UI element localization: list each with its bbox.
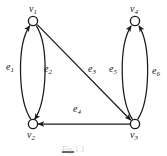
- figure-container: v1 v2 v3 v4 e1 e2 e3 e4 e5 e6 Fig 1.1: [0, 0, 167, 156]
- edge-label-e4-subscript: 4: [77, 108, 81, 116]
- vertex-v1: [28, 16, 37, 25]
- edge-path-e5: [122, 26, 132, 120]
- edge-label-e3-subscript: 3: [92, 68, 96, 76]
- edge-path-e1: [21, 26, 31, 120]
- vertex-label-v1: v1: [29, 4, 37, 14]
- caption-strip: Fig 1.1: [0, 144, 167, 156]
- edge-label-e1-subscript: 1: [10, 66, 14, 74]
- edge-label-e6-subscript: 6: [156, 70, 160, 78]
- vertex-label-v3: v3: [130, 130, 138, 140]
- edge-label-e6: e6: [152, 66, 160, 76]
- edge-paths: [21, 25, 148, 124]
- edge-path-e6: [138, 26, 148, 120]
- vertex-label-v4-subscript: 4: [134, 8, 138, 16]
- edge-label-e2-subscript: 2: [48, 68, 52, 76]
- edge-label-e2: e2: [44, 64, 52, 74]
- vertex-v4: [130, 16, 139, 25]
- vertex-label-v3-subscript: 3: [134, 134, 138, 142]
- vertex-label-v2-subscript: 2: [31, 134, 35, 142]
- directed-multigraph: [0, 0, 167, 156]
- edge-label-e1: e1: [6, 62, 14, 72]
- vertex-label-v2: v2: [27, 130, 35, 140]
- caption-text: Fig 1.1: [62, 145, 85, 154]
- vertex-v3: [130, 119, 139, 128]
- vertex-label-v1-subscript: 1: [33, 8, 37, 16]
- vertex-label-v4: v4: [130, 4, 138, 14]
- edge-label-e5: e5: [109, 64, 117, 74]
- edge-label-e4: e4: [73, 104, 81, 114]
- edge-label-e3: e3: [88, 64, 96, 74]
- edge-label-e5-subscript: 5: [113, 68, 117, 76]
- vertex-v2: [28, 119, 37, 128]
